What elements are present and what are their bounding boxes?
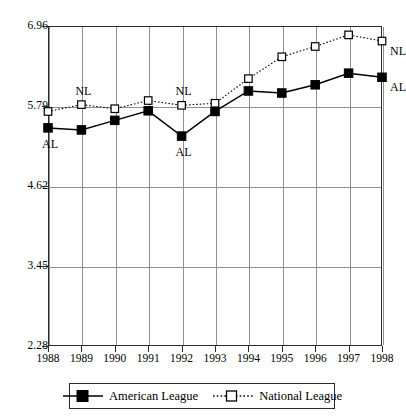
plot-area [48,26,382,346]
gridline-horizontal [49,267,381,268]
gridline-vertical [49,27,50,345]
x-tick-mark [282,346,283,352]
x-tick-mark [248,346,249,352]
legend-swatch-dotted-open-square [212,389,254,403]
gridline-vertical [116,27,117,345]
legend-swatch-solid-filled-square [62,389,104,403]
gridline-vertical [316,27,317,345]
gridline-vertical [183,27,184,345]
y-tick-mark [42,106,49,107]
x-tick-mark [182,346,183,352]
series-annotation-al: AL [390,81,406,93]
legend-label-american-league: American League [109,390,198,403]
x-tick-mark [115,346,116,352]
gridline-horizontal [49,107,381,108]
gridline-vertical [249,27,250,345]
x-tick-mark [315,346,316,352]
x-tick-mark [48,346,49,352]
x-tick-mark [382,346,383,352]
series-annotation-nl: NL [390,45,406,57]
series-annotation-nl: NL [176,85,192,97]
y-tick-mark [42,266,49,267]
gridline-vertical [283,27,284,345]
gridline-vertical [383,27,384,345]
x-tick-mark [215,346,216,352]
y-tick-mark [42,186,49,187]
legend-item-american-league[interactable]: American League [62,389,198,403]
series-annotation-al: AL [42,138,58,150]
x-tick-mark [148,346,149,352]
series-annotation-nl: NL [75,85,91,97]
x-tick-mark [81,346,82,352]
gridline-vertical [350,27,351,345]
chart-legend: American League National League [69,383,335,409]
y-tick-mark [42,26,49,27]
gridline-vertical [216,27,217,345]
legend-item-national-league[interactable]: National League [212,389,342,403]
legend-label-national-league: National League [259,390,342,403]
x-tick-mark [349,346,350,352]
gridline-horizontal [49,187,381,188]
x-tick-label: 1998 [359,352,405,364]
gridline-vertical [149,27,150,345]
gridline-vertical [82,27,83,345]
series-annotation-al: AL [176,146,192,158]
